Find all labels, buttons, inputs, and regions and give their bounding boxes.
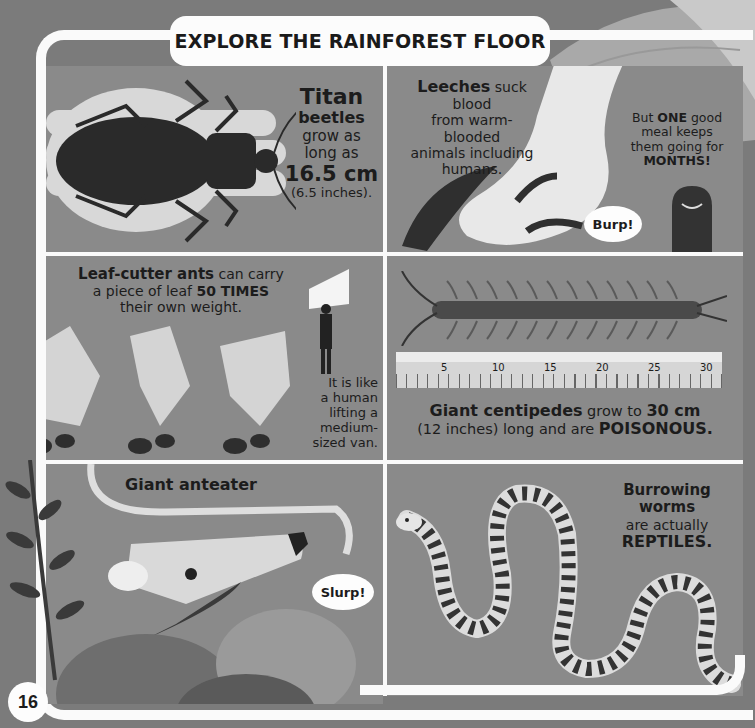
leeches-text: humans. (407, 161, 537, 177)
titan-size: 16.5 cm (284, 162, 379, 186)
panel-giant-centipedes: 5 10 15 20 25 30 Giant centipedes grow t… (387, 256, 743, 460)
leeches-side-text: good (687, 110, 722, 125)
ruler-label: 5 (441, 362, 447, 373)
panel-leeches: Leeches suck blood from warm-blooded ani… (387, 66, 743, 252)
leaf-cutter-side-text: sized van. (308, 436, 378, 451)
page-title: EXPLORE THE RAINFOREST FLOOR (174, 30, 545, 52)
ruler-label: 25 (648, 362, 661, 373)
leaf-cutter-bold-number: 50 TIMES (196, 283, 269, 299)
page-frame-corner (360, 655, 745, 695)
person-lifting-van-icon (304, 264, 354, 374)
leaf-cutter-side-text: lifting a (308, 406, 378, 421)
centipede-warning: POISONOUS. (599, 419, 713, 438)
leeches-bold: Leeches (417, 77, 490, 96)
centipede-icon (397, 271, 727, 346)
slurp-speech-bubble: Slurp! (312, 574, 374, 610)
titan-heading: Titan (284, 84, 379, 109)
titan-subheading: beetles (284, 109, 379, 127)
fern-plant-icon (0, 460, 90, 690)
leaf-cutter-text: a piece of leaf (93, 283, 197, 299)
titan-size-imperial: (6.5 inches). (284, 186, 379, 201)
centipede-size: 30 cm (646, 401, 700, 420)
page-title-tab: EXPLORE THE RAINFOREST FLOOR (170, 16, 550, 66)
centipede-text: (12 inches) long and are (417, 421, 599, 437)
ruler-label: 15 (544, 362, 557, 373)
worms-bold: Burrowing (612, 482, 722, 499)
leaf-cutter-text: their own weight. (66, 299, 296, 315)
titan-text: grow as (284, 128, 379, 145)
leeches-side-bold: MONTHS! (627, 154, 727, 168)
titan-beetle-icon (46, 71, 296, 246)
worms-bold: worms (612, 499, 722, 516)
divider (46, 460, 743, 464)
leaf-cutter-side-text: medium- (308, 421, 378, 436)
ruler-label: 30 (700, 362, 713, 373)
centipede-text: grow to (583, 403, 647, 419)
leech-mascot-icon (667, 186, 717, 252)
leeches-side-text: But (632, 110, 657, 125)
leaf-cutter-text: can carry (214, 266, 284, 282)
ruler-label: 20 (596, 362, 609, 373)
leeches-side-text: meal keeps (627, 125, 727, 139)
centipede-bold: Giant centipedes (430, 401, 583, 420)
leaf-cutter-side-text: a human (308, 391, 378, 406)
panel-titan-beetle: Titan beetles grow as long as 16.5 cm (6… (46, 66, 383, 252)
leeches-text: from warm-blooded (407, 112, 537, 144)
worms-text: are actually (612, 517, 722, 533)
leeches-text: animals including (407, 145, 537, 161)
page-number-badge: 16 (8, 682, 48, 722)
worms-reptiles: REPTILES. (612, 533, 722, 551)
leaf-cutter-side-text: It is like (308, 376, 378, 391)
leeches-side-bold: ONE (657, 110, 687, 125)
divider (46, 252, 743, 256)
leaf-cutter-ant-icon (46, 316, 320, 460)
ruler-label: 10 (492, 362, 505, 373)
panel-leaf-cutter-ants: Leaf-cutter ants can carry a piece of le… (46, 256, 383, 460)
panel-giant-anteater: Giant anteater Slurp! (46, 464, 383, 704)
titan-text: long as (284, 145, 379, 162)
ruler: 5 10 15 20 25 30 (396, 352, 722, 388)
burp-speech-bubble: Burp! (584, 206, 642, 242)
leeches-side-text: them going for (627, 140, 727, 154)
anteater-title: Giant anteater (116, 476, 266, 494)
divider (383, 66, 387, 696)
leaf-cutter-bold: Leaf-cutter ants (78, 265, 214, 283)
